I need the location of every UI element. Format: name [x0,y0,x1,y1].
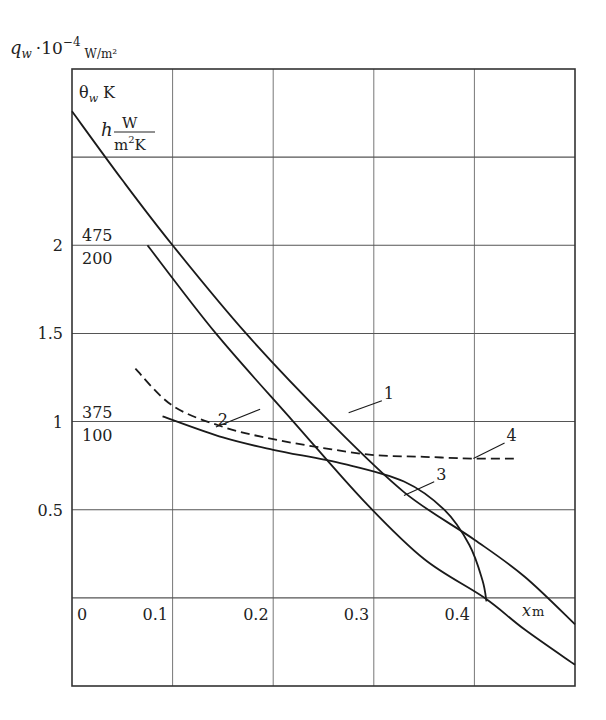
y-axis-title-theta: θwK [79,83,116,105]
series-line-4 [135,369,514,459]
series-line-3 [163,416,487,601]
series-line-1 [72,111,575,624]
h-tick-label: 200 [82,249,113,268]
chart: qw·10−4W/m² θwK h W m2K 0.511.52 4752003… [0,0,606,720]
x-tick-label: 0.2 [243,605,268,624]
svg-text:m2K: m2K [114,134,147,154]
x-tick-label: 0.4 [444,605,469,624]
y-tick-label: 0.5 [38,501,63,520]
series-label-1: 1 [384,384,394,403]
series-label-3: 3 [436,465,446,484]
series-line-2 [147,245,575,665]
y-tick-label: 1 [53,413,63,432]
x-tick-label: 0.3 [344,605,369,624]
secondary-tick-labels: 475200375100 [82,226,113,444]
y-axis-title-h: h W m2K [101,114,155,154]
theta-tick-label: 475 [82,226,113,245]
h-tick-label: 100 [82,426,113,445]
y-tick-labels: 0.511.52 [38,236,63,519]
theta-tick-label: 375 [82,403,113,422]
x-tick-label: 0 [77,605,87,624]
x-axis-title: xm [522,601,544,620]
data-series: 1234 [72,111,575,665]
x-tick-label: 0.1 [143,605,168,624]
series-leader-4 [473,443,504,459]
y-tick-label: 2 [53,236,63,255]
series-leader-1 [349,401,382,413]
y-tick-label: 1.5 [38,324,63,343]
svg-text:h: h [101,119,113,140]
svg-text:W: W [122,114,138,132]
series-label-4: 4 [507,426,517,445]
plot-frame [72,69,575,686]
y-axis-title-q: qw·10−4W/m² [10,35,117,61]
grid-lines [72,69,575,686]
